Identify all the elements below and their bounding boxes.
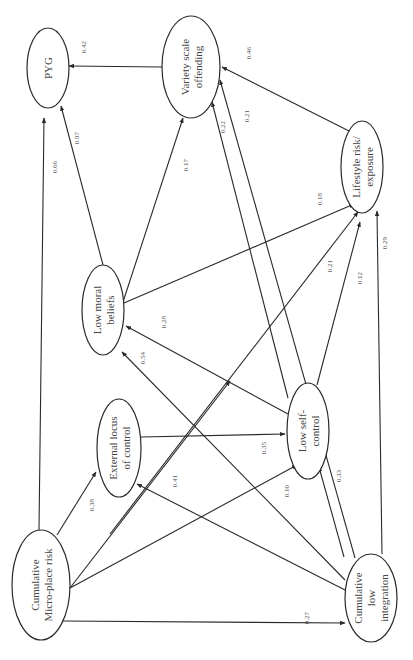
- node-variety: Variety scaleoffending: [162, 16, 220, 118]
- node-integration: Cumulativelowintegration: [345, 554, 397, 642]
- coefficient-label: 0.21: [243, 109, 251, 122]
- node-selfcontrol: Low self-control: [287, 383, 329, 479]
- coefficient-label: 0.54: [139, 351, 147, 364]
- node-microplace: CumulativeMicro-place risk: [12, 530, 70, 640]
- edge-integration-to-locus: [137, 484, 345, 590]
- edge-microplace-to-lifestyle: [110, 212, 358, 534]
- coefficient-label: 0.17: [182, 158, 190, 171]
- coefficient-label: 0.46: [245, 46, 253, 59]
- coefficient-label: 0.27: [303, 611, 311, 624]
- node-label: Low self-control: [296, 409, 321, 452]
- edge-microplace-to-pyg: [39, 118, 44, 530]
- coefficient-label: 0.10: [283, 484, 291, 497]
- node-pyg: PYG: [27, 28, 69, 108]
- edge-moral-to-pyg: [61, 106, 103, 265]
- node-label: Variety scaleoffending: [179, 39, 204, 96]
- coefficient-label: 0.29: [381, 236, 389, 249]
- coefficient-label: 0.66: [51, 160, 59, 173]
- edge-variety-to-pyg: [69, 66, 162, 67]
- node-label: PYG: [42, 57, 54, 79]
- coefficient-label: 0.42: [80, 40, 88, 53]
- path-diagram: PYGVariety scaleoffendingLifestyle risk/…: [0, 0, 413, 660]
- edge-moral-to-lifestyle: [124, 204, 354, 303]
- coefficient-label: 0.12: [356, 271, 364, 284]
- edge-selfcontrol-to-variety: [212, 102, 288, 398]
- coefficient-label: 0.35: [260, 441, 268, 454]
- edge-selfcontrol-to-moral: [126, 326, 288, 414]
- edge-moral-to-variety: [123, 118, 183, 302]
- nodes-layer: PYGVariety scaleoffendingLifestyle risk/…: [12, 16, 397, 642]
- coefficient-label: 0.97: [73, 131, 81, 144]
- coefficient-label: 0.21: [326, 259, 334, 272]
- node-locus: External locusof control: [97, 399, 141, 497]
- edge-integration-to-lifestyle: [377, 211, 382, 554]
- node-moral: Low moralbeliefs: [82, 265, 124, 355]
- edge-microplace-to-moral: [70, 381, 230, 588]
- coefficient-label: 0.33: [335, 469, 343, 482]
- edge-locus-to-selfcontrol: [141, 434, 285, 437]
- edge-selfcontrol-to-lifestyle: [317, 222, 360, 385]
- coefficient-label: 0.22: [219, 120, 227, 133]
- coefficient-label: 0.41: [171, 474, 179, 487]
- coefficient-label: 0.28: [160, 315, 168, 328]
- node-lifestyle: Lifestyle risk/exposure: [341, 121, 383, 213]
- coefficient-label: 0.18: [316, 192, 324, 205]
- edge-lifestyle-to-variety: [222, 67, 349, 131]
- coefficient-label: 0.38: [88, 498, 96, 511]
